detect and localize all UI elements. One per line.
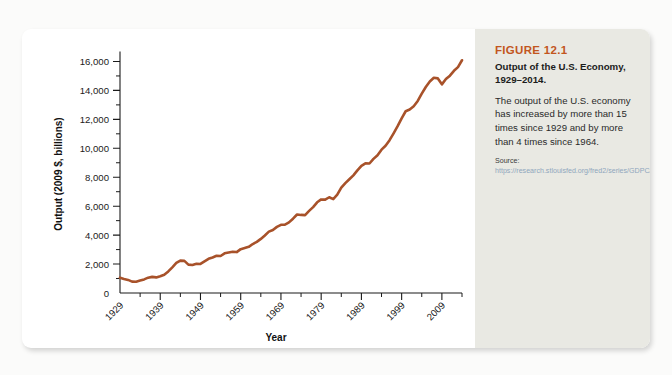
figure-description: The output of the U.S. economy has incre…	[495, 94, 643, 149]
x-tick-label: 2009	[424, 300, 447, 323]
figure-number: FIGURE 12.1	[495, 44, 643, 56]
y-axis-title: Output (2009 $, billions)	[53, 117, 64, 230]
line-chart: 02,0004,0006,0008,00010,00012,00014,0001…	[22, 29, 475, 348]
figure-root: 02,0004,0006,0008,00010,00012,00014,0001…	[0, 0, 672, 375]
x-tick-label: 1989	[344, 300, 367, 323]
figure-title: Output of the U.S. Economy, 1929–2014.	[495, 61, 643, 87]
y-tick-label: 2,000	[85, 259, 109, 270]
caption-panel: FIGURE 12.1 Output of the U.S. Economy, …	[475, 29, 650, 348]
figure-card: 02,0004,0006,0008,00010,00012,00014,0001…	[22, 29, 650, 348]
x-tick-label: 1979	[304, 300, 327, 323]
chart-plot-area: 02,0004,0006,0008,00010,00012,00014,0001…	[22, 29, 475, 348]
y-tick-label: 4,000	[85, 230, 109, 241]
x-axis-title: Year	[265, 332, 286, 343]
x-tick-label: 1969	[263, 300, 286, 323]
figure-source: Source: https://research.stlouisfed.org/…	[495, 157, 643, 177]
x-tick-label: 1999	[384, 300, 407, 323]
source-url[interactable]: https://research.stlouisfed.org/fred2/se…	[495, 167, 650, 175]
y-tick-label: 6,000	[85, 201, 109, 212]
x-tick-label: 1949	[183, 300, 206, 323]
x-tick-label: 1959	[223, 300, 246, 323]
y-tick-label: 14,000	[80, 85, 109, 96]
y-tick-label: 10,000	[80, 143, 109, 154]
y-tick-label: 12,000	[80, 114, 109, 125]
x-tick-label: 1929	[103, 300, 126, 323]
y-tick-label: 0	[104, 288, 109, 299]
y-tick-label: 8,000	[85, 172, 109, 183]
x-tick-label: 1939	[143, 300, 166, 323]
y-tick-label: 16,000	[80, 56, 109, 67]
data-series-line	[120, 60, 462, 282]
source-label: Source:	[495, 157, 519, 165]
